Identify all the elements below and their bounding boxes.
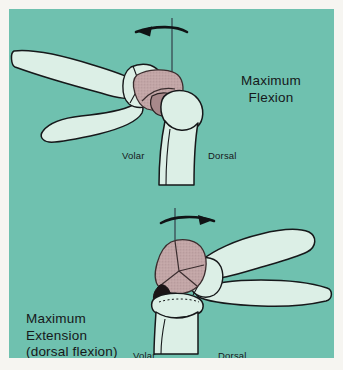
bone-metacarpal-upper [11, 51, 140, 99]
flexion-arrow-icon [136, 27, 187, 37]
bone-metacarpal-lower [41, 104, 143, 143]
volar-label-bottom: Volar [133, 350, 156, 358]
bone-radius-shaft-top [159, 121, 198, 185]
extension-arrow-icon [161, 215, 214, 225]
wrist-motion-illustration [9, 9, 334, 358]
maximum-extension-caption: Maximum Extension (dorsal flexion) [26, 311, 118, 358]
bone-radius-shaft-bottom [154, 312, 198, 354]
figure-root: Maximum Flexion Maximum Extension (dorsa… [0, 0, 343, 370]
maximum-flexion-caption: Maximum Flexion [215, 73, 327, 106]
dorsal-label-top: Dorsal [208, 150, 237, 161]
top-figure-group [11, 18, 202, 185]
bottom-figure-group [152, 208, 332, 354]
illustration-panel: Maximum Flexion Maximum Extension (dorsa… [9, 9, 334, 358]
dorsal-label-bottom: Dorsal [218, 350, 247, 358]
volar-label-top: Volar [122, 150, 145, 161]
